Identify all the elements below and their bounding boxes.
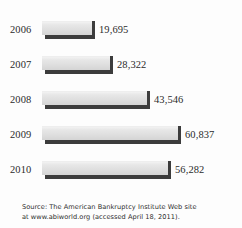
- value-label-2006: 19,695: [99, 17, 128, 43]
- bar-chart-figure: 2006 19,695 2007 28,322 2008: [0, 0, 242, 228]
- source-note: Source: The American Bankruptcy Institut…: [22, 203, 228, 222]
- bar-face: [42, 21, 92, 35]
- bar-shadow-bottom: [45, 105, 150, 109]
- bar-shadow-bottom: [45, 70, 113, 74]
- bar-2010: [42, 161, 168, 179]
- bar-face: [42, 91, 147, 105]
- bar-2007: [42, 56, 110, 74]
- bar-shadow-bottom: [45, 35, 95, 39]
- bar-shadow-bottom: [45, 175, 171, 179]
- category-label-2009: 2009: [10, 122, 40, 148]
- source-note-line-1: Source: The American Bankruptcy Institut…: [22, 203, 228, 213]
- bar-row: 2006 19,695: [0, 17, 242, 43]
- bar-row: 2009 60,837: [0, 122, 242, 148]
- bar-face: [42, 161, 168, 175]
- bar-row: 2008 43,546: [0, 87, 242, 113]
- plot-area: 2006 19,695 2007 28,322 2008: [0, 8, 242, 193]
- category-label-2008: 2008: [10, 87, 40, 113]
- category-label-2006: 2006: [10, 17, 40, 43]
- category-label-2010: 2010: [10, 157, 40, 183]
- bar-row: 2010 56,282: [0, 157, 242, 183]
- bar-2006: [42, 21, 92, 39]
- value-label-2009: 60,837: [185, 122, 214, 148]
- value-label-2010: 56,282: [175, 157, 204, 183]
- bar-shadow-bottom: [45, 140, 181, 144]
- value-label-2007: 28,322: [117, 52, 146, 78]
- source-note-line-2: at www.abiworld.org (accessed April 18, …: [22, 213, 228, 223]
- bar-face: [42, 126, 178, 140]
- value-label-2008: 43,546: [154, 87, 183, 113]
- bar-2009: [42, 126, 178, 144]
- bar-face: [42, 56, 110, 70]
- category-label-2007: 2007: [10, 52, 40, 78]
- bar-2008: [42, 91, 147, 109]
- bar-row: 2007 28,322: [0, 52, 242, 78]
